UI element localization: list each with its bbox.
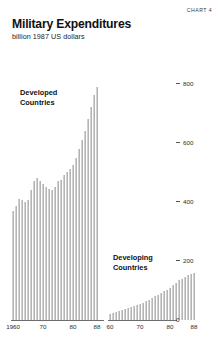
bar: [190, 274, 192, 320]
x-axis-tick-label: 80: [70, 323, 77, 330]
y-axis-tick: 200: [176, 257, 193, 265]
bar: [45, 187, 47, 320]
bar: [124, 309, 126, 320]
bar: [112, 313, 114, 320]
bar: [133, 306, 135, 320]
bar: [24, 202, 26, 320]
x-axis-tick-label: 70: [40, 323, 47, 330]
bar: [21, 200, 23, 320]
bar: [27, 200, 29, 320]
x-axis-tick-label: 70: [137, 323, 144, 330]
bar: [127, 308, 129, 320]
bar: [139, 304, 141, 320]
tick-mark-icon: [176, 142, 180, 143]
series-annotation-line: Countries: [113, 263, 153, 273]
y-axis-tick-label: 200: [183, 257, 193, 265]
bar: [96, 87, 98, 320]
bar: [187, 275, 189, 320]
bar: [75, 158, 77, 321]
bar: [175, 283, 177, 320]
bar: [48, 189, 50, 320]
bar: [166, 290, 168, 320]
chart-plot-area: DevelopedCountries DevelopingCountries 8…: [0, 0, 219, 345]
series-annotation-line: Developed: [20, 88, 57, 98]
bar: [109, 314, 111, 321]
bar: [30, 190, 32, 320]
bar: [154, 296, 156, 320]
bar: [66, 172, 68, 320]
bar: [181, 279, 183, 320]
bar: [54, 187, 56, 320]
bar: [84, 131, 86, 320]
bar: [142, 303, 144, 320]
bar: [121, 310, 123, 320]
bar: [136, 305, 138, 320]
x-axis-tick-label: 88: [191, 323, 198, 330]
bar: [15, 206, 17, 320]
bar: [118, 311, 120, 320]
series-annotation-developed: DevelopedCountries: [20, 88, 57, 107]
bar: [39, 181, 41, 320]
y-axis-tick-label: 600: [183, 139, 193, 147]
bar: [33, 181, 35, 320]
bar: [130, 307, 132, 320]
bar: [184, 277, 186, 320]
tick-mark-icon: [176, 260, 180, 261]
bar: [69, 169, 71, 320]
bar: [57, 181, 59, 320]
bar: [36, 178, 38, 320]
bar: [72, 165, 74, 320]
y-axis-tick: 600: [176, 139, 193, 147]
bar: [12, 211, 14, 320]
y-axis-tick: 0: [176, 316, 179, 324]
bar: [151, 298, 153, 320]
bar: [60, 180, 62, 320]
series-annotation-line: Countries: [20, 98, 57, 108]
series-annotation-line: Developing: [113, 253, 153, 263]
bar: [163, 291, 165, 320]
bar: [115, 312, 117, 320]
y-axis-tick-label: 0: [176, 316, 179, 324]
bar: [148, 300, 150, 320]
x-axis-tick-label: 80: [167, 323, 174, 330]
bar: [78, 149, 80, 320]
bar: [157, 295, 159, 320]
bar: [178, 280, 180, 320]
x-axis-tick-label: 60: [107, 323, 114, 330]
y-axis-tick-label: 800: [183, 80, 193, 88]
bar: [63, 175, 65, 320]
bar: [172, 285, 174, 320]
y-axis-tick: 400: [176, 198, 193, 206]
bar: [145, 301, 147, 320]
tick-mark-icon: [176, 201, 180, 202]
series-annotation-developing: DevelopingCountries: [113, 253, 153, 272]
y-axis-tick-label: 400: [183, 198, 193, 206]
bar: [42, 184, 44, 320]
bar: [169, 288, 171, 321]
bar-series-developing: [109, 60, 195, 320]
bar: [93, 95, 95, 320]
bar: [18, 199, 20, 320]
bar: [81, 140, 83, 320]
bar: [90, 107, 92, 320]
axis-baseline-developing: [108, 320, 177, 321]
x-axis-tick-label: 1960: [6, 323, 20, 330]
x-axis-tick-label: 88: [94, 323, 101, 330]
bar: [51, 190, 53, 320]
bar: [160, 293, 162, 320]
bar: [193, 273, 195, 320]
bar: [87, 119, 89, 320]
y-axis-tick: 800: [176, 80, 193, 88]
axis-baseline-developed: [11, 320, 104, 321]
tick-mark-icon: [176, 83, 180, 84]
